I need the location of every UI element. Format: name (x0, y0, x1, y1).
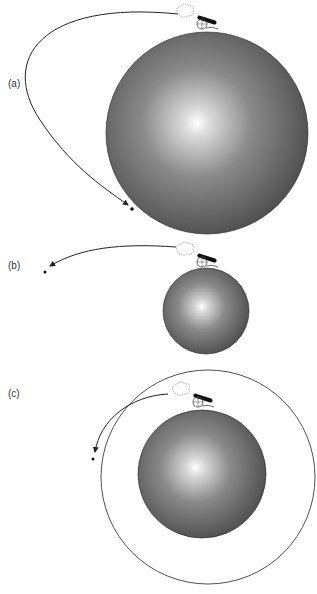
cannon-a-icon (177, 4, 218, 29)
cannon-c-icon (173, 382, 214, 407)
trajectory-b (50, 246, 176, 266)
cannonball-c (92, 458, 95, 461)
newton-cannon-diagram (0, 0, 317, 594)
planet-c (138, 410, 266, 538)
panel-b (44, 242, 250, 354)
cannonball-b (44, 271, 47, 274)
panel-c (92, 370, 316, 584)
cannonball-a (130, 207, 134, 211)
planet-b (163, 268, 249, 354)
cannon-b-icon (177, 242, 218, 267)
planet-a (106, 32, 308, 234)
panel-a (25, 4, 308, 234)
